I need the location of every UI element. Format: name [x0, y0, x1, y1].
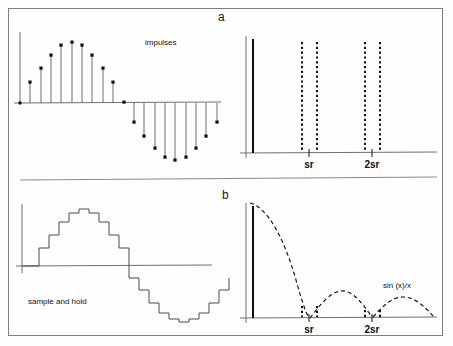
impulse-frequency-domain-plot: sr 2sr: [240, 36, 437, 170]
tick-label-sr: sr: [304, 324, 314, 335]
staircase-negative: [129, 266, 229, 322]
sinc-annotation: sin (x)/x: [383, 281, 411, 290]
positive-stems: [18, 41, 125, 105]
staircase-positive: [22, 209, 129, 266]
x-axis: [14, 102, 221, 103]
tick-label-2sr: 2sr: [364, 159, 379, 170]
sinc-envelope-lobe-2: [373, 297, 434, 317]
panel-label-b: b: [222, 188, 229, 202]
figure-drawing: sr 2sr sr: [0, 0, 453, 346]
figure-container: sr 2sr sr: [0, 0, 453, 346]
sinc-envelope-lobe-1: [310, 291, 372, 318]
negative-stems: [132, 103, 218, 162]
impulse-time-domain-plot: [14, 32, 221, 162]
x-axis: [240, 152, 437, 153]
sample-hold-frequency-domain-plot: sr 2sr: [240, 203, 437, 335]
impulses-annotation: impulses: [145, 38, 177, 47]
sinc-envelope-main-lobe: [250, 203, 309, 318]
tick-label-2sr: 2sr: [364, 324, 379, 335]
panel-divider: [20, 177, 437, 180]
x-axis: [16, 265, 212, 266]
tick-label-sr: sr: [304, 159, 314, 170]
x-axis: [240, 317, 437, 318]
sample-and-hold-annotation: sample and hold: [28, 297, 87, 306]
panel-label-a: a: [218, 10, 225, 24]
